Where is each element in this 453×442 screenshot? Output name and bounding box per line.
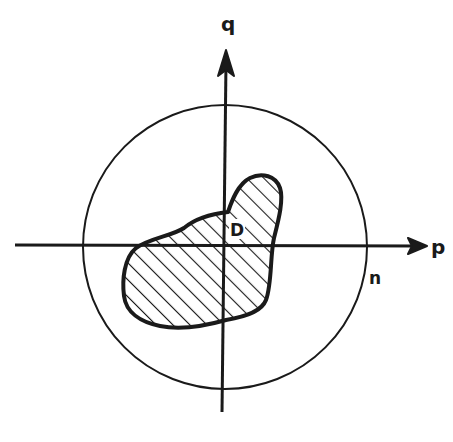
region-d (123, 175, 281, 327)
q-axis-label: q (221, 12, 235, 36)
diagram-canvas: q p n D (0, 0, 453, 442)
p-axis-label: p (431, 235, 445, 259)
region-label: D (230, 220, 244, 240)
circle-label: n (369, 268, 381, 288)
p-axis (15, 245, 420, 246)
q-axis (222, 62, 226, 412)
